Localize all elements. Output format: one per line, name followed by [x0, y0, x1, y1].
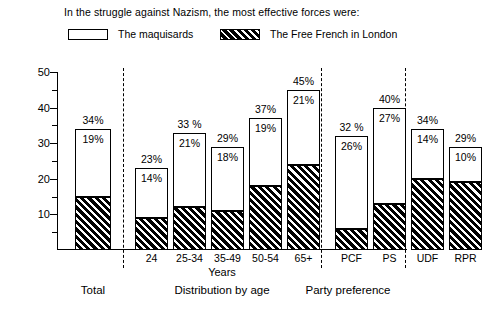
bar-segment-label: 21% — [179, 137, 200, 149]
group-title-age: Distribution by age — [174, 284, 269, 296]
bar-segment-label: 14% — [141, 172, 162, 184]
group-divider-3 — [405, 68, 406, 268]
bar-35-49[interactable]: 29%18% — [211, 147, 244, 250]
bar-total-label: 29% — [455, 132, 476, 144]
bar-segment-label: 21% — [293, 94, 314, 106]
bar-segment-label: 10% — [455, 151, 476, 163]
segment-free-french — [173, 207, 206, 250]
x-tick-label-rpr: RPR — [454, 252, 476, 264]
legend-entry-free-french: The Free French in London — [220, 26, 397, 42]
x-tick-label-50-54: 50-54 — [252, 252, 279, 264]
x-tick-label-ps: PS — [382, 252, 396, 264]
bar-segment-label: 18% — [217, 151, 238, 163]
segment-free-french — [287, 165, 320, 250]
x-tick-label-35-49: 35-49 — [214, 252, 241, 264]
bar-50-54[interactable]: 37%19% — [249, 118, 282, 250]
group-title-total: Total — [81, 284, 105, 296]
group-title-party: Party preference — [305, 284, 390, 296]
plot-area: 34%19%23%14%33 %21%29%18%37%19%45%21%32 … — [57, 72, 407, 250]
segment-free-french — [335, 229, 368, 250]
bar-total-label: 34% — [82, 114, 103, 126]
y-axis-tick-30 — [50, 143, 57, 144]
y-axis-tick-10 — [50, 214, 57, 215]
x-tick-label-25-34: 25-34 — [176, 252, 203, 264]
bar-total-label: 33 % — [178, 118, 202, 130]
legend-entry-maquisards: The maquisards — [68, 26, 193, 42]
bar-rpr[interactable]: 29%10% — [449, 147, 482, 250]
legend-label-maquisards: The maquisards — [118, 28, 193, 40]
bar-total-label: 40% — [379, 93, 400, 105]
y-tick-label-40: 40 — [24, 102, 50, 114]
x-tick-label-65-: 65+ — [295, 252, 313, 264]
bar-total-label: 23% — [141, 153, 162, 165]
y-axis-tick-20 — [50, 179, 57, 180]
segment-free-french — [211, 211, 244, 250]
segment-free-french — [249, 186, 282, 250]
y-axis-tick-5 — [52, 232, 57, 233]
legend-swatch-hatched — [220, 29, 260, 40]
group-divider-2 — [321, 68, 322, 268]
x-tick-label-pcf: PCF — [341, 252, 362, 264]
y-axis-line — [57, 72, 58, 250]
chart-title: In the struggle against Nazism, the most… — [64, 6, 394, 18]
bar-25-34[interactable]: 33 %21% — [173, 133, 206, 250]
chart-legend: The maquisards The Free French in London — [60, 26, 410, 42]
y-axis-tick-15 — [52, 197, 57, 198]
y-tick-label-50: 50 — [24, 66, 50, 78]
bar-total-label: 29% — [217, 132, 238, 144]
bar-segment-label: 26% — [341, 140, 362, 152]
segment-free-french — [449, 182, 482, 250]
y-axis-tick-labels: 10 20 30 40 50 — [22, 72, 50, 250]
bar-total-label: 37% — [255, 103, 276, 115]
y-tick-label-20: 20 — [24, 173, 50, 185]
bar-24[interactable]: 23%14% — [135, 168, 168, 250]
group-divider-1 — [123, 68, 124, 268]
bar-ps[interactable]: 40%27% — [373, 108, 406, 250]
bar-65-[interactable]: 45%21% — [287, 90, 320, 250]
bar-segment-label: 27% — [379, 112, 400, 124]
y-tick-label-10: 10 — [24, 208, 50, 220]
legend-swatch-white — [68, 29, 108, 40]
y-tick-label-30: 30 — [24, 137, 50, 149]
bar-total-label: 32 % — [340, 121, 364, 133]
x-axis-subtitle-years: Years — [208, 266, 236, 278]
bar-pcf[interactable]: 32 %26% — [335, 136, 368, 250]
x-tick-label-udf: UDF — [417, 252, 439, 264]
y-axis-tick-50 — [50, 72, 57, 73]
segment-free-french — [373, 204, 406, 250]
bar-total[interactable]: 34%19% — [75, 129, 111, 250]
y-axis-tick-25 — [52, 161, 57, 162]
bar-total-label: 45% — [293, 75, 314, 87]
segment-free-french — [75, 197, 111, 250]
segment-free-french — [135, 218, 168, 250]
y-axis-tick-35 — [52, 125, 57, 126]
bar-total-label: 34% — [417, 114, 438, 126]
bar-udf[interactable]: 34%14% — [411, 129, 444, 250]
segment-free-french — [411, 179, 444, 250]
y-axis-tick-45 — [52, 90, 57, 91]
bar-segment-label: 14% — [417, 133, 438, 145]
bar-segment-label: 19% — [82, 133, 103, 145]
legend-label-free-french: The Free French in London — [270, 28, 397, 40]
bar-segment-label: 19% — [255, 122, 276, 134]
x-tick-label-24: 24 — [146, 252, 158, 264]
y-axis-tick-40 — [50, 108, 57, 109]
